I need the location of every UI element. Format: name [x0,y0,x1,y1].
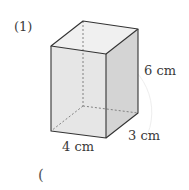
width-label: 4 cm [62,140,94,153]
depth-label: 3 cm [128,129,160,142]
height-label: 6 cm [144,64,176,77]
answer-paren: ( [38,168,44,183]
problem-number: (1) [14,20,32,33]
